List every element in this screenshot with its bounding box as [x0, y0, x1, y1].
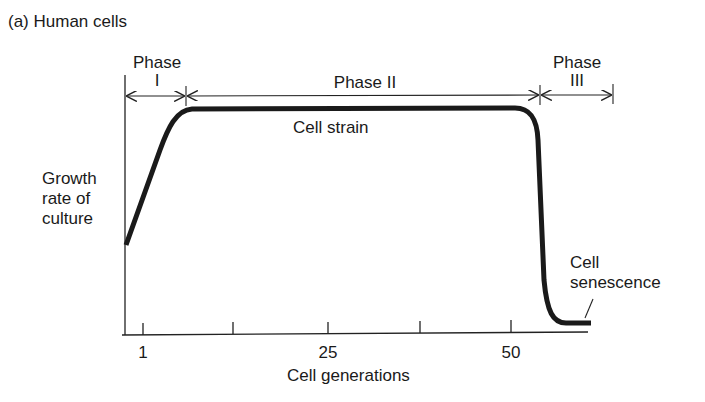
senescence-line2: senescence — [570, 273, 661, 293]
x-axis-label: Cell generations — [287, 366, 410, 386]
y-label-line3: culture — [42, 209, 97, 229]
x-tick-label-1: 1 — [128, 343, 158, 363]
cell-senescence-label: Cell senescence — [570, 253, 661, 293]
x-tick-label-50: 50 — [496, 343, 526, 363]
y-label-line2: rate of — [42, 189, 97, 209]
senescence-line1: Cell — [570, 253, 661, 273]
x-axis — [122, 332, 588, 335]
growth-curve — [126, 108, 591, 323]
y-label-line1: Growth — [42, 169, 97, 189]
phase-3-title: Phase — [540, 53, 614, 73]
cell-strain-label: Cell strain — [293, 118, 369, 138]
phase-3-label: Phase III — [540, 53, 614, 91]
phase-1-title: Phase — [126, 53, 188, 73]
phase-1-label: Phase I — [126, 53, 188, 91]
y-axis-label: Growth rate of culture — [42, 169, 97, 229]
phase-2-label: Phase II — [300, 73, 430, 93]
phase-3-numeral: III — [540, 71, 614, 91]
x-tick-label-25: 25 — [313, 343, 343, 363]
senescence-pointer — [585, 299, 593, 318]
phase-1-numeral: I — [126, 71, 188, 91]
